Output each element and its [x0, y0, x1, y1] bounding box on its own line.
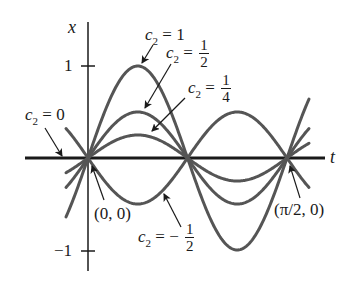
fraction-one-half: 12 [199, 38, 209, 70]
label-c2-quarter: c2 = 14 [188, 73, 231, 105]
arrow-c2-1 [142, 45, 153, 63]
point-label-pi-half: (π/2, 0) [274, 201, 324, 218]
fraction-one-quarter: 14 [221, 73, 231, 105]
fraction-one-half-neg: 12 [185, 222, 195, 254]
tick-label-minus-1: −1 [54, 242, 72, 259]
point-label-origin: (0, 0) [94, 205, 131, 222]
x-axis-label: x [68, 18, 76, 36]
solution-curves-diagram: x t 1 −1 c2 = 1 c2 = 12 c2 = 14 c2 = 0 c… [0, 0, 359, 288]
label-c2-0: c2 = 0 [25, 106, 65, 123]
label-c2-neg-half: c2 = − 12 [138, 222, 194, 254]
tick-label-1: 1 [64, 57, 73, 74]
t-axis-label: t [330, 148, 335, 166]
label-c2-half: c2 = 12 [166, 38, 209, 70]
arrow-c2-0 [45, 128, 62, 156]
